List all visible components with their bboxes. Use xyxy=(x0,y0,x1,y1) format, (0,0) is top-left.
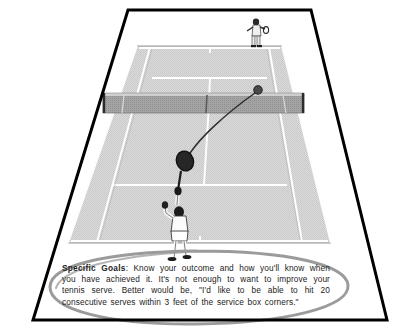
player-shoe-left xyxy=(168,257,177,261)
tennis-serve-goal-figure: Specific Goals: Know your outcome and ho… xyxy=(0,0,396,332)
player-shoe-right xyxy=(183,255,192,259)
tennis-ball xyxy=(254,86,262,94)
far-player-racket xyxy=(263,27,268,34)
receiving-player xyxy=(247,19,269,48)
net-tape xyxy=(103,93,304,96)
player-shirt xyxy=(171,216,188,232)
caption-block: Specific Goals: Know your outcome and ho… xyxy=(62,263,330,308)
tossing-hand xyxy=(162,201,168,209)
net-center-strap xyxy=(206,95,207,113)
player-shorts xyxy=(171,231,188,241)
tennis-net xyxy=(103,93,304,113)
net-mesh xyxy=(103,95,304,113)
caption-lead-label: Specific Goals xyxy=(62,263,126,273)
